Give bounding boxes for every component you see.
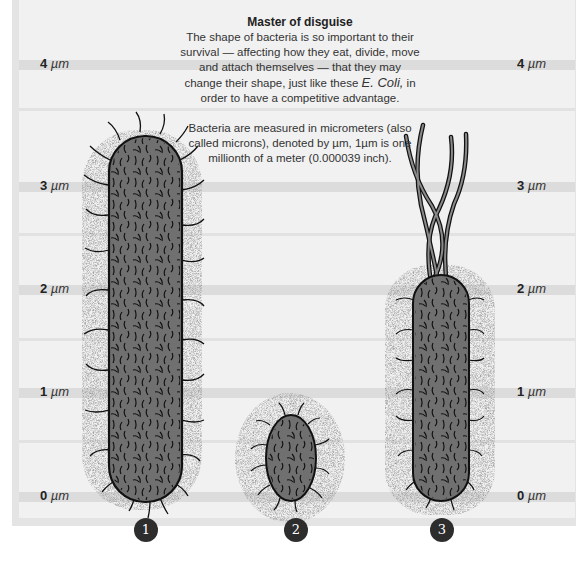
marker-1: 1 bbox=[134, 518, 158, 542]
scale-label-left-1: 1 µm bbox=[40, 384, 69, 399]
caption-paragraph-1: The shape of bacteria is so important to… bbox=[180, 30, 420, 106]
caption-paragraph-2: Bacteria are measured in micrometers (al… bbox=[180, 121, 420, 166]
scale-label-left-0: 0 µm bbox=[40, 488, 69, 503]
scale-label-right-3: 3 µm bbox=[517, 178, 546, 193]
scale-label-left-4: 4 µm bbox=[40, 56, 69, 71]
caption-title: Master of disguise bbox=[180, 15, 420, 30]
marker-3: 3 bbox=[430, 518, 454, 542]
scale-label-right-4: 4 µm bbox=[517, 56, 546, 71]
marker-2: 2 bbox=[284, 518, 308, 542]
scale-label-left-2: 2 µm bbox=[40, 281, 69, 296]
scale-label-right-2: 2 µm bbox=[517, 281, 546, 296]
caption-block: Master of disguise The shape of bacteria… bbox=[180, 15, 420, 166]
scale-label-right-0: 0 µm bbox=[517, 488, 546, 503]
scale-label-left-3: 3 µm bbox=[40, 178, 69, 193]
scale-label-right-1: 1 µm bbox=[517, 384, 546, 399]
